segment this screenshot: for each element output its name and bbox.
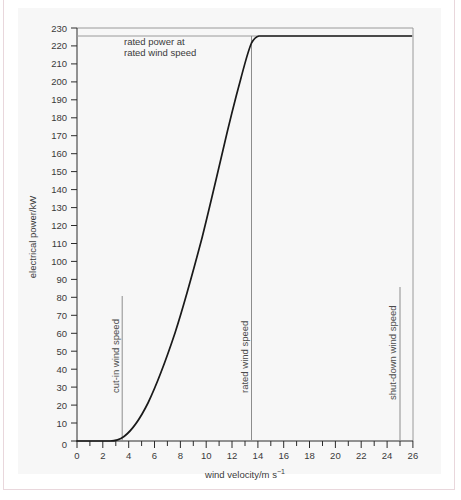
x-axis-minor-ticks [90,441,400,446]
x-tick-label: 4 [126,450,131,461]
y-tick-label: 120 [51,220,67,231]
x-tick-label: 24 [382,450,393,461]
plot-svg: 0 10 20 30 40 50 60 70 80 90 100 110 120… [0,0,461,500]
x-tick-label: 26 [408,450,419,461]
y-tick-label: 50 [56,346,67,357]
y-tick-label: 60 [56,328,67,339]
y-tick-label: 190 [51,94,67,105]
x-axis-title: wind velocity/m s−1 [204,468,285,480]
rated-power-annotation-line2: rated wind speed [124,47,196,58]
x-axis-title-superscript: −1 [277,468,285,475]
y-axis-ticks [71,28,77,441]
x-tick-label: 14 [253,450,264,461]
y-tick-label: 170 [51,130,67,141]
x-tick-label: 20 [330,450,341,461]
y-tick-label: 220 [51,40,67,51]
x-tick-label: 0 [74,450,79,461]
y-tick-label: 210 [51,58,67,69]
y-tick-label: 180 [51,112,67,123]
y-tick-label: 100 [51,256,67,267]
page-root: 0 10 20 30 40 50 60 70 80 90 100 110 120… [0,0,461,500]
x-tick-label: 6 [152,450,157,461]
y-tick-label: 30 [56,382,67,393]
y-tick-label: 140 [51,184,67,195]
y-tick-label: 200 [51,76,67,87]
y-tick-label: 80 [56,292,67,303]
y-tick-label: 20 [56,400,67,411]
rated-wind-speed-label: rated wind speed [239,321,250,393]
x-tick-label: 10 [201,450,212,461]
y-tick-label: 130 [51,202,67,213]
y-tick-label: 40 [56,364,67,375]
x-tick-label: 2 [100,450,105,461]
y-tick-label: 150 [51,166,67,177]
y-axis-tick-labels: 0 10 20 30 40 50 60 70 80 90 100 110 120… [51,23,67,450]
cut-in-wind-speed-label: cut-in wind speed [110,319,121,393]
rated-power-annotation: rated power at rated wind speed [124,36,196,58]
x-tick-label: 22 [356,450,367,461]
x-tick-label: 18 [304,450,315,461]
y-tick-label: 230 [51,23,67,34]
x-axis-tick-labels: 0 2 4 6 8 10 12 14 16 18 20 22 24 26 [74,450,418,461]
x-tick-label: 16 [278,450,289,461]
x-axis-title-text: wind velocity/m s [204,469,277,480]
y-tick-label: 0 [62,439,67,450]
x-tick-label: 12 [227,450,238,461]
y-tick-label: 90 [56,274,67,285]
y-tick-label: 70 [56,310,67,321]
wind-turbine-power-curve-chart: 0 10 20 30 40 50 60 70 80 90 100 110 120… [0,0,461,500]
x-tick-label: 8 [178,450,183,461]
shut-down-wind-speed-label: shut-down wind speed [387,305,398,400]
y-tick-label: 160 [51,148,67,159]
y-tick-label: 10 [56,418,67,429]
y-axis-title: electrical power/kW [27,196,38,278]
rated-power-annotation-line1: rated power at [124,36,185,47]
y-tick-label: 110 [52,238,67,249]
